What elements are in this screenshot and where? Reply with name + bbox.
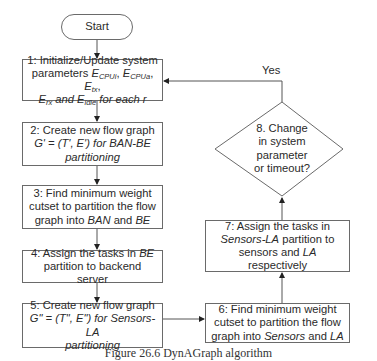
step-7-line-2: Sensors-LA partition to	[210, 233, 345, 246]
decision-line-1: 8. Change	[232, 122, 332, 135]
sub-idle: idle	[85, 98, 97, 107]
var-e: E	[77, 93, 84, 105]
step-2-line-1: 2: Create new flow graph	[30, 124, 154, 137]
sub-rx: rx	[46, 98, 52, 107]
step-6-box: 6: Find minimum weight cutset to partiti…	[205, 303, 350, 343]
step-5-line-2: G" = (T", E") for Sensors-LA	[27, 312, 158, 338]
var-e: E	[38, 93, 45, 105]
be-term: BE	[139, 247, 154, 259]
step-1-line-1: 1: Initialize/Update system	[27, 54, 158, 67]
respectively: respectively	[248, 259, 307, 271]
step-1-line-3: Erx and Eidle for each r	[27, 93, 158, 106]
step-1-text: 1: Initialize/Update system parameters E…	[27, 54, 158, 107]
step-4-line-2: partition to backend server	[27, 260, 158, 286]
and-word: and	[114, 214, 133, 226]
step-6-line-2: cutset to partition the flow	[211, 316, 344, 329]
graph-into: graph into	[211, 330, 261, 342]
sensors-term: Sensors	[264, 330, 305, 342]
decision-8-text: 8. Change in system parameter or timeout…	[232, 122, 332, 175]
be-term: BE	[135, 214, 150, 226]
start-terminal: Start	[61, 14, 133, 40]
step-5-line-1: 5: Create new flow graph	[27, 299, 158, 312]
start-label: Start	[85, 20, 109, 33]
step-7-box: 7: Assign the tasks in Sensors-LA partit…	[205, 220, 350, 272]
step-2-line-2: G' = (T', E') for BAN-BE	[30, 137, 154, 150]
step-2-line-3: partitioning	[30, 151, 154, 164]
decision-line-2: in system	[232, 135, 332, 148]
step-7-line-3: sensors and LA respectively	[210, 246, 345, 272]
step-4-line-1: 4: Assign the tasks in BE	[27, 247, 158, 260]
step-3-line-1: 3: Find minimum weight	[29, 187, 156, 200]
for-each-r: for each r	[99, 93, 146, 105]
var-e: E	[84, 80, 91, 92]
figure-caption: Figure 26.6 DynAGraph algorithm	[0, 346, 377, 361]
params-word: parameters	[32, 67, 89, 79]
step-1-line-2: parameters ECPUi, ECPUa, Etx,	[27, 67, 158, 93]
step-2-box: 2: Create new flow graph G' = (T', E') f…	[22, 122, 163, 166]
ban-term: BAN	[88, 214, 111, 226]
step-5-box: 5: Create new flow graph G" = (T", E") f…	[22, 303, 163, 348]
var-e: E	[91, 67, 98, 79]
assign-tasks: 4: Assign the tasks in	[31, 247, 136, 259]
step-3-line-2: cutset to partition the flow	[29, 200, 156, 213]
sub-cpui: CPUi	[99, 72, 117, 81]
decision-line-4: or timeout?	[232, 162, 332, 175]
sensors-la-term: Sensors-LA	[221, 233, 279, 245]
step-7-line-1: 7: Assign the tasks in	[210, 220, 345, 233]
la-term: LA	[303, 246, 317, 258]
var-e: E	[123, 67, 130, 79]
step-6-line-1: 6: Find minimum weight	[211, 303, 344, 316]
decision-line-3: parameter	[232, 149, 332, 162]
and-word: and	[308, 330, 327, 342]
and-word: and	[55, 93, 74, 105]
graph-into: graph into	[35, 214, 85, 226]
sensors-and: sensors and	[239, 246, 300, 258]
la-term: LA	[330, 330, 344, 342]
partition-to: partition to	[282, 233, 334, 245]
step-6-line-3: graph into Sensors and LA	[211, 330, 344, 343]
sub-cpua: CPUa	[130, 72, 150, 81]
step-1-box: 1: Initialize/Update system parameters E…	[22, 59, 163, 101]
step-3-line-3: graph into BAN and BE	[29, 214, 156, 227]
step-3-box: 3: Find minimum weight cutset to partiti…	[22, 185, 163, 229]
yes-label: Yes	[262, 64, 280, 76]
step-4-box: 4: Assign the tasks in BE partition to b…	[22, 250, 163, 283]
